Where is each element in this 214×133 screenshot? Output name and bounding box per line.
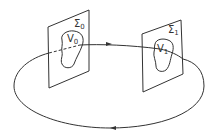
flow-loop-back-left bbox=[14, 53, 204, 128]
flow-loop-dashed-through-sigma0 bbox=[49, 45, 80, 53]
label-sigma1: Σ1 bbox=[168, 24, 179, 37]
section-plane-sigma0 bbox=[48, 10, 89, 88]
diagram-canvas: Σ0 V0 Σ1 V1 bbox=[0, 0, 214, 133]
label-v1: V1 bbox=[157, 43, 168, 56]
label-sigma0: Σ0 bbox=[74, 18, 85, 31]
arrow-left-icon bbox=[110, 126, 116, 130]
arrow-right-icon bbox=[106, 42, 112, 46]
diagram: Σ0 V0 Σ1 V1 bbox=[0, 0, 214, 133]
label-v0: V0 bbox=[67, 33, 78, 46]
